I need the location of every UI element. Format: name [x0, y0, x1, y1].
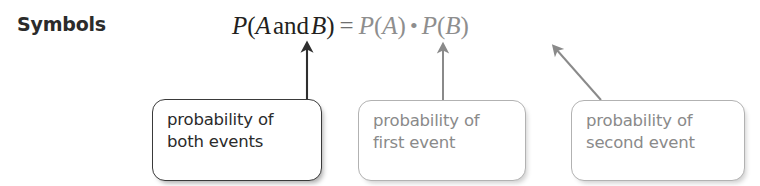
- callout-first-event: probability of first event: [358, 100, 526, 181]
- callout-second-event: probability of second event: [571, 100, 745, 181]
- arrow-to-second-event: [556, 49, 601, 100]
- callout-both-events-line2: both events: [167, 131, 308, 153]
- callout-second-event-line2: second event: [586, 132, 731, 154]
- callout-first-event-line1: probability of: [373, 110, 512, 132]
- callout-second-event-line1: probability of: [586, 110, 731, 132]
- callout-both-events: probability of both events: [152, 99, 322, 181]
- callout-first-event-line2: first event: [373, 132, 512, 154]
- symbols-formula-diagram: Symbols P(AandB)=P(A)•P(B) probability o…: [0, 0, 760, 186]
- callout-both-events-line1: probability of: [167, 109, 308, 131]
